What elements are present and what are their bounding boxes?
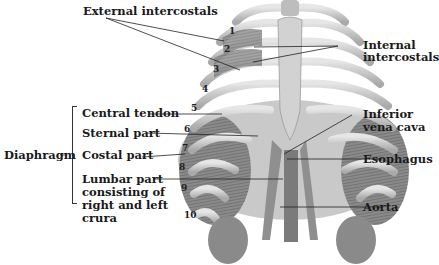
label-diaphragm: Diaphragm xyxy=(4,149,76,162)
label-inferior-vena-cava-1: Inferior xyxy=(363,108,413,121)
rib-number-8: 8 xyxy=(179,162,185,172)
label-lumbar-2: consisting of xyxy=(82,186,165,199)
label-internal-intercostals-2: intercostals xyxy=(363,51,439,64)
label-central-tendon: Central tendon xyxy=(82,107,179,120)
label-sternal-part: Sternal part xyxy=(82,127,160,140)
rib-number-3: 3 xyxy=(213,64,219,74)
label-esophagus: Esophagus xyxy=(363,153,433,166)
label-aorta: Aorta xyxy=(363,201,398,214)
label-lumbar-3: right and left xyxy=(82,199,168,212)
label-inferior-vena-cava-2: vena cava xyxy=(363,121,425,134)
rib-number-2: 2 xyxy=(224,44,230,54)
rib-number-1: 1 xyxy=(229,26,235,36)
rib-number-5: 5 xyxy=(191,103,197,113)
label-lumbar-4: crura xyxy=(82,212,117,225)
rib-number-9: 9 xyxy=(181,183,187,193)
rib-number-7: 7 xyxy=(182,143,188,153)
label-lumbar-1: Lumbar part xyxy=(82,173,163,186)
rib-number-4: 4 xyxy=(202,84,208,94)
label-costal-part: Costal part xyxy=(82,149,153,162)
rib-number-6: 6 xyxy=(184,124,190,134)
label-external-intercostals: External intercostals xyxy=(83,5,218,18)
rib-number-10: 10 xyxy=(184,210,197,220)
